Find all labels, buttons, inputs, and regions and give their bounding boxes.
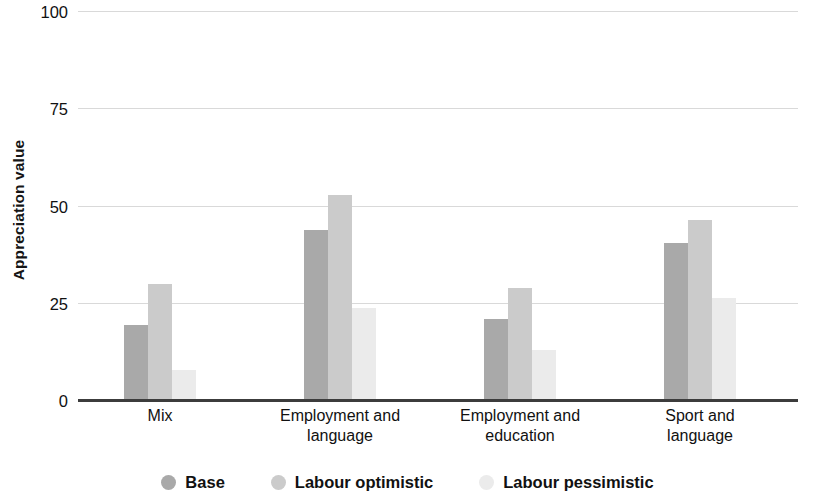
x-axis-label-4: Sport andlanguage — [610, 406, 790, 446]
y-tick-label-0: 0 — [22, 393, 68, 410]
y-tick-label-75: 75 — [22, 101, 68, 118]
legend-label: Labour optimistic — [295, 473, 433, 492]
bar — [484, 319, 508, 401]
x-axis-label-3: Employment andeducation — [430, 406, 610, 446]
legend-item[interactable]: Labour pessimistic — [479, 473, 653, 492]
chart-legend: BaseLabour optimisticLabour pessimistic — [0, 466, 815, 498]
x-axis-label-2: Employment andlanguage — [250, 406, 430, 446]
bar-group — [124, 12, 196, 401]
bar-group — [484, 12, 556, 401]
bar-chart: Appreciation value 0255075100 MixEmploym… — [0, 0, 815, 498]
legend-swatch-circle-icon — [271, 475, 286, 490]
x-axis-line — [78, 399, 798, 402]
bar — [688, 220, 712, 401]
bar — [532, 350, 556, 401]
bar — [712, 298, 736, 401]
bar — [172, 370, 196, 401]
legend-item[interactable]: Labour optimistic — [271, 473, 433, 492]
legend-swatch-circle-icon — [161, 475, 176, 490]
bar — [352, 308, 376, 401]
x-axis-category-labels: MixEmployment andlanguageEmployment ande… — [78, 406, 798, 454]
bar — [124, 325, 148, 401]
y-tick-label-25: 25 — [22, 296, 68, 313]
bar — [508, 288, 532, 401]
bar — [148, 284, 172, 401]
bar — [304, 230, 328, 401]
legend-swatch-circle-icon — [479, 475, 494, 490]
bar — [664, 243, 688, 401]
bar — [328, 195, 352, 401]
legend-item[interactable]: Base — [161, 473, 224, 492]
y-tick-label-100: 100 — [22, 4, 68, 21]
bar-group — [664, 12, 736, 401]
plot-area — [78, 12, 798, 401]
bar-group — [304, 12, 376, 401]
y-tick-label-50: 50 — [22, 198, 68, 215]
x-axis-label-1: Mix — [70, 406, 250, 426]
legend-label: Base — [185, 473, 224, 492]
legend-label: Labour pessimistic — [503, 473, 653, 492]
y-axis-tick-labels: 0255075100 — [22, 0, 68, 420]
